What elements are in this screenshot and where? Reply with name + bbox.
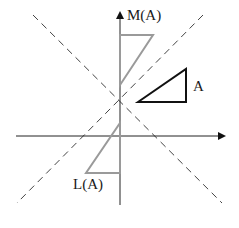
- dashed-line-descending: [33, 15, 222, 203]
- x-axis-arrow-icon: [218, 132, 226, 140]
- label-m-a: M(A): [127, 8, 161, 23]
- diagram-canvas: [0, 0, 239, 228]
- reflection-diagram: M(A) A L(A): [0, 0, 239, 228]
- label-a: A: [193, 79, 204, 94]
- triangle-m-a: [120, 35, 153, 85]
- label-l-a: L(A): [73, 177, 103, 192]
- y-axis-arrow-icon: [116, 11, 124, 19]
- triangle-l-a: [86, 123, 120, 173]
- dashed-line-ascending: [17, 15, 203, 203]
- triangle-a: [138, 69, 186, 102]
